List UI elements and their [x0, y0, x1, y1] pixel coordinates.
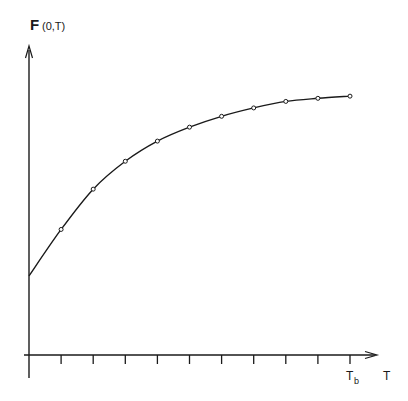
y-axis-label: F: [30, 16, 39, 33]
data-point-marker: [284, 99, 288, 103]
data-point-marker: [252, 106, 256, 110]
data-point-marker: [91, 187, 95, 191]
x-axis-ticks: [61, 355, 350, 364]
data-markers: [59, 94, 352, 231]
tb-tick-label: T: [346, 369, 354, 383]
data-point-marker: [316, 96, 320, 100]
data-point-marker: [123, 159, 127, 163]
data-point-marker: [348, 94, 352, 98]
data-point-marker: [188, 125, 192, 129]
y-axis-label-sub: (0,T): [42, 20, 65, 32]
data-point-marker: [220, 114, 224, 118]
data-point-marker: [155, 139, 159, 143]
data-point-marker: [59, 227, 63, 231]
data-curve: [29, 96, 350, 276]
tb-tick-label-sub: b: [354, 376, 359, 386]
x-axis-label: T: [383, 369, 391, 383]
chart-canvas: F (0,T) T b T: [0, 0, 408, 401]
